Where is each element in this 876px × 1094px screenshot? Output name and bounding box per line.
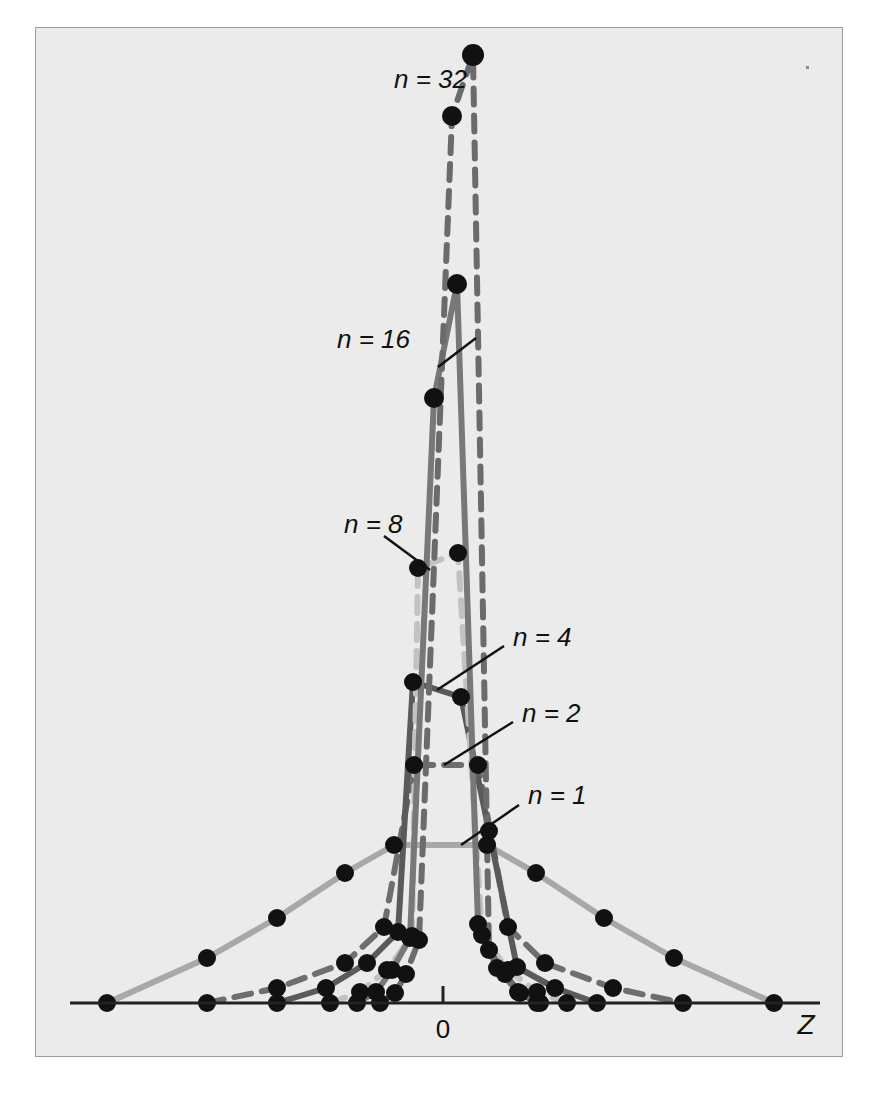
x-axis-origin-label: 0 [436,1014,450,1044]
series-line-n1 [107,845,774,1003]
data-point [405,756,423,774]
data-point [469,915,487,933]
series-label-n16: n = 16 [337,324,411,354]
series-line-n8 [330,553,567,1003]
x-axis [70,986,820,1003]
data-point [665,949,683,967]
data-point [386,984,404,1002]
data-point [469,756,487,774]
data-point [462,44,484,66]
data-point [536,954,554,972]
annotation-leader-lines [384,338,519,845]
x-axis-label: Z [796,1009,815,1040]
sampling-distribution-chart: n = 32 n = 16 n = 8 n = 4 n = 2 n = 1 0 … [0,0,876,1094]
leader-line-n8 [384,536,430,570]
data-point [449,544,467,562]
data-point [198,949,216,967]
data-point [442,106,462,126]
data-point [397,965,415,983]
data-point [404,673,422,691]
data-point [527,864,545,882]
series-label-n8: n = 8 [344,509,403,539]
data-point [268,909,286,927]
data-point [424,388,444,408]
data-point [336,954,354,972]
series-layer [107,55,774,1003]
data-point [452,688,470,706]
figure-root: n = 32 n = 16 n = 8 n = 4 n = 2 n = 1 0 … [0,0,876,1094]
data-point [385,836,403,854]
data-point [604,979,622,997]
data-point [410,931,428,949]
data-point [447,274,467,294]
series-label-n2: n = 2 [522,698,581,728]
data-point [546,979,564,997]
data-point [496,965,514,983]
series-label-n32: n = 32 [394,64,468,94]
data-point [480,941,498,959]
series-label-n1: n = 1 [528,780,587,810]
data-point [595,909,613,927]
data-point [336,864,354,882]
series-line-n2 [207,765,683,1003]
series-label-n4: n = 4 [513,622,572,652]
data-point [511,984,529,1002]
data-point [358,954,376,972]
data-point [499,918,517,936]
marker-layer [98,44,783,1012]
